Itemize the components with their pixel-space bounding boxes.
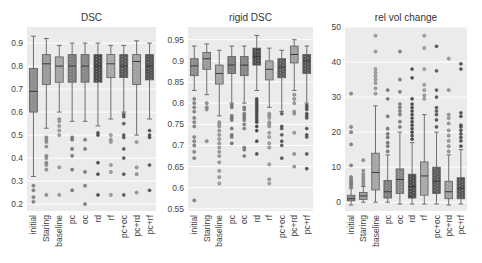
- x-tick-label: rd: [93, 215, 103, 223]
- y-tick-label: 50: [332, 22, 342, 32]
- y-tick-label: 0.95: [167, 35, 184, 45]
- outlier-point: [243, 118, 246, 121]
- outlier-point: [374, 87, 377, 90]
- outlier-point: [423, 46, 426, 49]
- y-tick-label: 20: [332, 127, 342, 137]
- outlier-point: [218, 133, 221, 136]
- x-tick-label: pc+rf: [145, 214, 155, 234]
- outlier-point: [459, 145, 462, 148]
- outlier-point: [96, 173, 99, 176]
- outlier-point: [148, 136, 151, 139]
- outlier-point: [193, 102, 196, 105]
- outlier-point: [423, 83, 426, 86]
- outlier-point: [58, 129, 61, 132]
- outlier-point: [193, 125, 196, 128]
- outlier-point: [447, 129, 450, 132]
- outlier-point: [459, 124, 462, 127]
- outlier-point: [109, 193, 112, 196]
- outlier-point: [268, 182, 271, 185]
- outlier-point: [218, 137, 221, 140]
- outlier-point: [218, 129, 221, 132]
- outlier-point: [58, 193, 61, 196]
- outlier-point: [411, 127, 414, 130]
- outlier-point: [230, 127, 233, 130]
- outlier-point: [109, 134, 112, 137]
- outlier-point: [435, 125, 438, 128]
- outlier-point: [122, 136, 125, 139]
- outlier-point: [218, 150, 221, 153]
- outlier-point: [411, 110, 414, 113]
- outlier-point: [293, 102, 296, 105]
- outlier-point: [45, 145, 48, 148]
- y-tick-label: 0.9: [11, 38, 23, 48]
- outlier-point: [435, 110, 438, 113]
- outlier-point: [109, 170, 112, 173]
- outlier-point: [447, 57, 450, 60]
- outlier-point: [411, 131, 414, 134]
- x-tick-label: baseline: [371, 215, 381, 247]
- outlier-point: [96, 161, 99, 164]
- outlier-point: [45, 168, 48, 171]
- outlier-point: [135, 166, 138, 169]
- outlier-point: [374, 50, 377, 53]
- outlier-point: [305, 167, 308, 170]
- outlier-point: [193, 135, 196, 138]
- outlier-point: [411, 76, 414, 79]
- outlier-point: [374, 34, 377, 37]
- outlier-point: [255, 129, 258, 132]
- outlier-point: [305, 152, 308, 155]
- x-tick-label: oc: [395, 214, 405, 224]
- outlier-point: [398, 90, 401, 93]
- y-tick-label: 30: [332, 92, 342, 102]
- outlier-point: [268, 142, 271, 145]
- outlier-point: [193, 121, 196, 124]
- outlier-point: [423, 67, 426, 70]
- outlier-point: [58, 120, 61, 123]
- x-tick-label: pc: [67, 214, 77, 224]
- outlier-point: [205, 140, 208, 143]
- outlier-point: [268, 125, 271, 128]
- outlier-point: [435, 88, 438, 91]
- outlier-point: [71, 154, 74, 157]
- outlier-point: [58, 134, 61, 137]
- outlier-point: [350, 125, 353, 128]
- outlier-point: [374, 74, 377, 77]
- outlier-point: [96, 193, 99, 196]
- outlier-point: [293, 93, 296, 96]
- outlier-point: [32, 189, 35, 192]
- outlier-point: [230, 106, 233, 109]
- outlier-point: [374, 78, 377, 81]
- outlier-point: [280, 112, 283, 115]
- outlier-point: [386, 141, 389, 144]
- outlier-point: [193, 97, 196, 100]
- outlier-point: [218, 161, 221, 164]
- x-tick-label: baseline: [54, 215, 64, 247]
- outlier-point: [350, 131, 353, 134]
- outlier-point: [435, 106, 438, 109]
- outlier-point: [386, 88, 389, 91]
- outlier-point: [447, 150, 450, 153]
- outlier-point: [32, 200, 35, 203]
- outlier-point: [423, 97, 426, 100]
- outlier-point: [193, 150, 196, 153]
- outlier-point: [193, 157, 196, 160]
- outlier-point: [205, 102, 208, 105]
- outlier-point: [193, 116, 196, 119]
- outlier-point: [255, 152, 258, 155]
- outlier-point: [398, 110, 401, 113]
- x-tick-label: initial: [346, 215, 356, 234]
- outlier-point: [148, 189, 151, 192]
- subplot-title: rigid DSC: [229, 12, 272, 23]
- outlier-point: [305, 135, 308, 138]
- outlier-point: [280, 140, 283, 143]
- outlier-point: [423, 88, 426, 91]
- outlier-point: [374, 67, 377, 70]
- x-tick-label: baseline: [214, 215, 224, 247]
- y-tick-label: 0.9: [172, 56, 184, 66]
- y-tick-label: 40: [332, 57, 342, 67]
- x-tick-label: oc: [239, 214, 249, 224]
- outlier-point: [293, 97, 296, 100]
- outlier-point: [122, 147, 125, 150]
- outlier-point: [459, 129, 462, 132]
- outlier-point: [411, 97, 414, 100]
